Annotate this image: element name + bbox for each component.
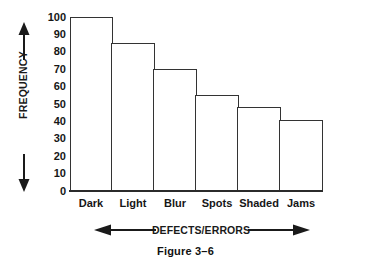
y-axis-tick-label: 80	[34, 46, 66, 57]
x-axis-tick-label: Light	[112, 196, 154, 210]
x-axis-line	[69, 190, 323, 192]
bar	[111, 43, 155, 191]
y-axis-tick-label: 40	[34, 116, 66, 127]
arrow-right-icon	[248, 223, 310, 237]
x-axis-tick-label: Jams	[280, 196, 322, 210]
bar	[153, 69, 197, 191]
y-axis-tick-label: 30	[34, 133, 66, 144]
x-axis-tick-label: Shaded	[238, 196, 280, 210]
y-axis-tick-label: 100	[34, 12, 66, 23]
x-axis-tick-label: Dark	[70, 196, 112, 210]
bars-layer	[70, 17, 322, 191]
y-axis-tick-label: 10	[34, 168, 66, 179]
y-axis-tick-label: 0	[34, 186, 66, 197]
y-axis-title: FREQUENCY	[16, 37, 30, 133]
arrow-down-icon	[17, 154, 31, 192]
plot-area	[70, 17, 322, 191]
y-axis-tick-label: 70	[34, 64, 66, 75]
x-axis-label-group: DEFECTS/ERRORS	[92, 221, 310, 239]
x-axis-tick-label: Spots	[196, 196, 238, 210]
y-axis-tick-label: 60	[34, 81, 66, 92]
bar	[237, 107, 281, 191]
x-axis-tick-labels: DarkLightBlurSpotsShadedJams	[70, 196, 322, 212]
y-axis-tick-label: 50	[34, 99, 66, 110]
bar	[70, 17, 113, 191]
y-axis-tick-label: 90	[34, 29, 66, 40]
bar	[279, 120, 323, 191]
bar	[195, 95, 239, 191]
figure-bar-chart: FREQUENCY 1009080706050403020100 DarkLig…	[0, 0, 371, 272]
y-axis-tick-label: 20	[34, 151, 66, 162]
x-axis-tick-label: Blur	[154, 196, 196, 210]
figure-caption: Figure 3–6	[0, 245, 371, 257]
y-axis-tick-labels: 1009080706050403020100	[34, 12, 66, 192]
